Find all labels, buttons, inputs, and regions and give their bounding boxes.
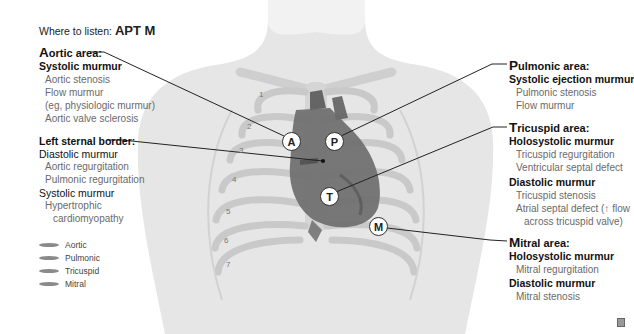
rib-number-6: 6 <box>224 236 228 245</box>
pulmonic-item: Flow murmur <box>516 101 574 111</box>
mitral-murmur-type: Diastolic murmur <box>509 278 595 289</box>
left-sternal-murmur-type: Diastolic murmur <box>39 149 118 160</box>
legend-swatch <box>39 269 59 273</box>
pulmonic-marker: P <box>325 132 344 151</box>
rib-number-1: 1 <box>259 90 263 99</box>
tricuspid-marker: T <box>320 187 339 206</box>
left-sternal-item: Hypertrophic <box>45 201 102 211</box>
tricuspid-item: Ventricular septal defect <box>516 163 623 173</box>
tricuspid-item: Tricuspid stenosis <box>516 191 596 201</box>
legend-item-mitral: Mitral <box>39 279 86 289</box>
tricuspid-murmur-type: Holosystolic murmur <box>509 136 614 147</box>
left-sternal-item: cardiomyopathy <box>53 214 124 224</box>
mitral-area-title: Mitral area: <box>509 236 570 250</box>
pulmonic-murmur-type: Systolic ejection murmur <box>509 74 634 85</box>
tricuspid-item: across tricuspid valve) <box>524 217 623 227</box>
legend-item-pulmonic: Pulmonic <box>39 253 100 263</box>
pulmonic-item: Pulmonic stenosis <box>516 88 597 98</box>
pulmonic-area-title: Pulmonic area: <box>509 59 590 73</box>
aortic-marker: A <box>282 132 301 151</box>
legend-swatch <box>39 256 59 260</box>
mitral-item: Mitral stenosis <box>516 292 580 302</box>
header: Where to listen: APT M <box>39 24 155 37</box>
rib-number-2: 2 <box>247 122 251 131</box>
mitral-item: Mitral regurgitation <box>516 265 599 275</box>
aortic-item: Aortic valve sclerosis <box>45 114 138 124</box>
left-sternal-murmur-type: Systolic murmur <box>39 188 114 199</box>
left-sternal-item: Aortic regurgitation <box>45 162 129 172</box>
rib-number-3: 3 <box>239 146 243 155</box>
tricuspid-murmur-type: Diastolic murmur <box>509 177 595 188</box>
header-mnemonic: APT M <box>115 23 155 38</box>
rib-number-7: 7 <box>226 260 230 269</box>
aortic-item: Aortic stenosis <box>45 75 110 85</box>
aortic-item: Flow murmur <box>45 88 103 98</box>
tricuspid-area-title: Tricuspid area: <box>509 121 589 135</box>
header-prefix: Where to listen: <box>39 25 112 37</box>
aortic-item: (eg, physiologic murmur) <box>45 101 155 111</box>
left-sternal-item: Pulmonic regurgitation <box>45 175 145 185</box>
aortic-murmur-type: Systolic murmur <box>39 61 122 72</box>
mitral-marker: M <box>369 217 388 236</box>
rib-number-5: 5 <box>226 207 230 216</box>
publisher-logo-icon <box>617 318 625 327</box>
aortic-area-title: Aortic area: <box>39 46 102 60</box>
legend-item-aortic: Aortic <box>39 240 87 250</box>
mitral-murmur-type: Holosystolic murmur <box>509 251 614 262</box>
legend-item-tricuspid: Tricuspid <box>39 266 99 276</box>
legend-swatch <box>39 282 59 286</box>
tricuspid-item: Atrial septal defect (↑ flow <box>516 204 630 214</box>
left-sternal-point <box>321 159 325 163</box>
rib-number-4: 4 <box>232 175 236 184</box>
left-sternal-title: Left sternal border: <box>39 136 135 147</box>
legend-swatch <box>39 243 59 247</box>
tricuspid-item: Tricuspid regurgitation <box>516 150 615 160</box>
